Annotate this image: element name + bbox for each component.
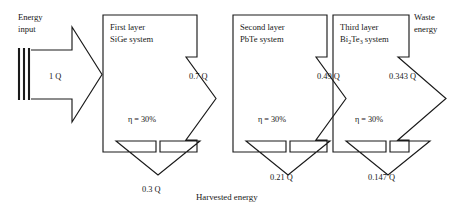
stage-2-name-line2: PbTe system — [240, 34, 284, 44]
stage-3-name-line2: Bi2Te3 system — [340, 34, 389, 45]
waste-energy-label-line1: Waste — [414, 12, 435, 22]
stage-1-material: SiGe — [110, 34, 127, 44]
stage-3-efficiency: η = 30% — [355, 115, 383, 124]
harvested-energy-caption: Harvested energy — [196, 192, 258, 202]
stage-2-efficiency: η = 30% — [258, 115, 286, 124]
diagram-canvas: Energy input 1 Q First layer SiGe system… — [0, 0, 460, 207]
stage-3-material-te: Te — [351, 34, 360, 44]
stage-1-name-line2: SiGe system — [110, 34, 154, 44]
energy-cascade-diagram: Energy input 1 Q First layer SiGe system… — [0, 0, 460, 207]
stage-2-output-down-value: 0.21 Q — [270, 173, 293, 182]
input-arrow-outline — [31, 27, 102, 122]
stage-2-system-word: system — [258, 34, 284, 44]
stage-1-output-right-value: 0.7 Q — [189, 72, 208, 81]
stage-2-name-line1: Second layer — [240, 22, 285, 32]
input-flow-value: 1 Q — [49, 72, 61, 81]
stage-1-name-line1: First layer — [110, 22, 145, 32]
stage-2-material: PbTe — [240, 34, 258, 44]
stage-3-system-word: system — [363, 34, 389, 44]
stage-1-efficiency: η = 30% — [128, 115, 156, 124]
stage-2-output-right-value: 0.49 Q — [317, 72, 340, 81]
stage-3-output-down-value: 0.147 Q — [368, 173, 395, 182]
energy-input-label-line2: input — [18, 24, 36, 34]
stage-3-output-right-value: 0.343 Q — [389, 72, 416, 81]
stage-3-name-line1: Third layer — [340, 22, 379, 32]
waste-energy-label-line2: energy — [414, 24, 438, 34]
stage-1-system-word: system — [127, 34, 153, 44]
stage-1-output-down-value: 0.3 Q — [142, 185, 161, 194]
energy-input-label-line1: Energy — [18, 12, 43, 22]
